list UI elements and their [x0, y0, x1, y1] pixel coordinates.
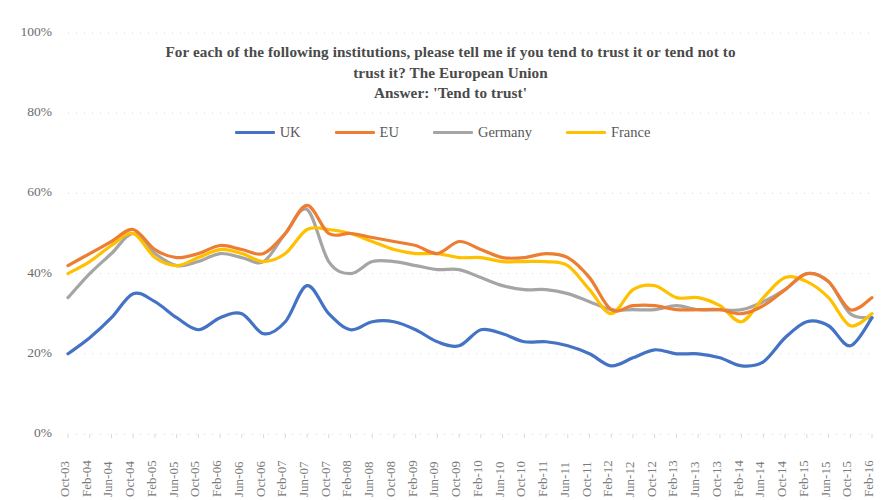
legend-swatch-uk — [235, 131, 275, 135]
legend-swatch-germany — [433, 131, 473, 135]
chart-legend: UK EU Germany France — [0, 124, 885, 141]
chart-title-line-3: Answer: 'Tend to trust' — [128, 83, 773, 104]
legend-label-germany: Germany — [478, 124, 532, 141]
y-axis-tick-label: 0% — [6, 425, 52, 441]
y-axis-tick-label: 20% — [6, 345, 52, 361]
legend-item-eu[interactable]: EU — [335, 124, 399, 141]
y-axis-tick-label: 40% — [6, 265, 52, 281]
series-line-eu[interactable] — [68, 205, 872, 313]
legend-item-germany[interactable]: Germany — [433, 124, 532, 141]
y-axis-tick-label: 60% — [6, 184, 52, 200]
legend-item-uk[interactable]: UK — [235, 124, 301, 141]
legend-label-eu: EU — [380, 124, 399, 141]
y-axis-tick-label: 100% — [6, 24, 52, 40]
chart-title: For each of the following institutions, … — [128, 42, 773, 104]
chart-title-line-1: For each of the following institutions, … — [128, 42, 773, 63]
chart-title-line-2: trust it? The European Union — [128, 63, 773, 84]
chart-container: For each of the following institutions, … — [0, 0, 885, 500]
y-axis-tick-label: 80% — [6, 104, 52, 120]
legend-swatch-france — [566, 131, 606, 135]
legend-label-france: France — [611, 124, 650, 141]
legend-item-france[interactable]: France — [566, 124, 650, 141]
legend-label-uk: UK — [280, 124, 301, 141]
legend-swatch-eu — [335, 131, 375, 135]
